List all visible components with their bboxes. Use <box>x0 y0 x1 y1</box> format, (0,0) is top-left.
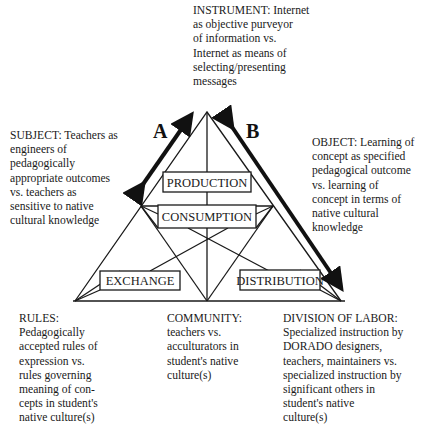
exchange-label: EXCHANGE <box>106 274 175 288</box>
consumption-label: CONSUMPTION <box>162 210 252 224</box>
consumption-box: CONSUMPTION <box>158 205 256 228</box>
production-label: PRODUCTION <box>167 176 248 190</box>
production-box: PRODUCTION <box>163 172 251 192</box>
arrow-a-label: A <box>153 120 168 142</box>
distribution-label: DISTRIBUTION <box>236 274 324 288</box>
activity-triangle-diagram: PRODUCTION CONSUMPTION EXCHANGE DISTRIBU… <box>0 0 424 427</box>
arrow-b-label: B <box>246 120 259 142</box>
distribution-box: DISTRIBUTION <box>236 270 324 290</box>
exchange-box: EXCHANGE <box>100 271 180 290</box>
